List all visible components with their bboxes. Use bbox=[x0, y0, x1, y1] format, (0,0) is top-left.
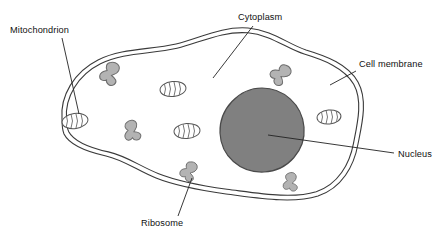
label-mitochondrion: Mitochondrion bbox=[10, 25, 69, 35]
label-cytoplasm: Cytoplasm bbox=[238, 12, 283, 22]
label-ribosome: Ribosome bbox=[141, 218, 183, 228]
nucleus-shape bbox=[220, 88, 304, 172]
nucleus-fill bbox=[220, 88, 304, 172]
label-cell-membrane: Cell membrane bbox=[359, 59, 423, 69]
cell-diagram-svg: Mitochondrion Cytoplasm Cell membrane Nu… bbox=[0, 0, 448, 238]
cell-diagram-canvas: Mitochondrion Cytoplasm Cell membrane Nu… bbox=[0, 0, 448, 238]
label-nucleus: Nucleus bbox=[398, 149, 432, 159]
